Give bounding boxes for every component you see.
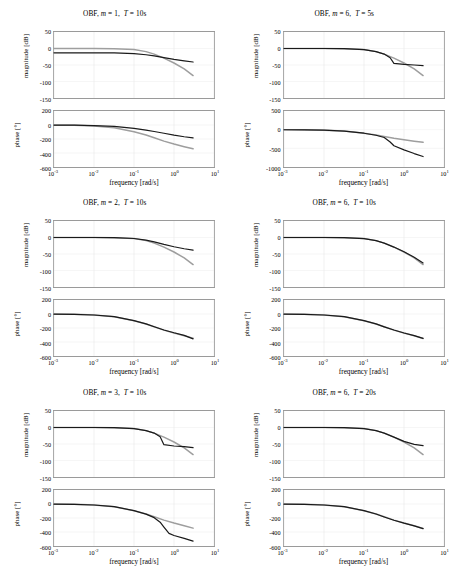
xtick: 10-2 [318,358,328,366]
ytick-phase: 0 [48,310,51,317]
frequency-axis-label: frequency [rad/s] [53,558,215,566]
ytick-phase: -400 [40,150,51,157]
ytick-magnitude: -50 [43,251,51,258]
panel-title: OBF, m = 3, T = 10s [0,388,230,397]
ytick-phase: -200 [40,136,51,143]
frequency-axis-label: frequency [rad/s] [53,179,215,187]
phase-axes [53,299,215,357]
xtick: 101 [211,169,219,177]
panel-title: OBF, m = 6, T = 20s [230,388,459,397]
panel-title: OBF, m = 6, T = 5s [230,9,459,18]
ytick-magnitude: 50 [274,406,280,413]
xtick: 10-3 [277,358,287,366]
bode-panel-obf-m1-T10: OBF, m = 1, T = 10s500-50-100-150magnitu… [0,0,230,189]
xtick: 100 [170,169,178,177]
magnitude-axes [53,410,215,478]
xtick: 100 [400,358,408,366]
ytick-magnitude: 0 [277,234,280,241]
xtick-row: 10-310-210-1100101 [0,358,230,368]
xtick: 100 [400,548,408,556]
xtick: 10-2 [88,548,98,556]
ytick-phase: -400 [269,529,280,536]
ytick-phase: 200 [42,107,51,114]
bode-panel-obf-m2-T10: OBF, m = 2, T = 10s500-50-100-150magnitu… [0,189,230,378]
ytick-phase: -200 [40,514,51,521]
ytick-phase: 200 [271,296,280,303]
xtick: 10-2 [318,548,328,556]
ytick-phase: 0 [277,126,280,133]
phase-axes [283,299,445,357]
xtick: 100 [170,358,178,366]
bode-panel-obf-m6-T5: OBF, m = 6, T = 5s500-50-100-150magnitud… [230,0,459,189]
phase-axis-label: phase [°] [243,295,251,353]
phase-axes [53,489,215,547]
ytick-magnitude: -150 [269,474,280,481]
phase-axes [283,110,445,168]
ytick-magnitude: -50 [272,251,280,258]
xtick: 10-1 [129,358,139,366]
ytick-magnitude: -150 [40,96,51,103]
phase-axis-label: phase [°] [243,485,251,543]
xtick-row: 10-310-210-1100101 [230,358,459,368]
xtick: 10-2 [318,169,328,177]
xtick: 10-2 [88,169,98,177]
phase-axis-label: phase [°] [243,106,251,164]
xtick-row: 10-310-210-1100101 [230,169,459,179]
ytick-magnitude: 50 [45,406,51,413]
bode-panel-obf-m6-T20: OBF, m = 6, T = 20s500-50-100-150magnitu… [230,379,459,568]
ytick-magnitude: -100 [40,79,51,86]
phase-axis-label: phase [°] [13,485,21,543]
ytick-magnitude: 50 [274,217,280,224]
xtick: 101 [211,548,219,556]
magnitude-axes [283,31,445,99]
ytick-magnitude: -150 [40,285,51,292]
xtick: 101 [440,548,448,556]
ytick-phase: 500 [271,107,280,114]
ytick-phase: 200 [42,296,51,303]
bode-plot-grid: OBF, m = 1, T = 10s500-50-100-150magnitu… [0,0,459,568]
xtick: 10-1 [129,548,139,556]
magnitude-axes [53,220,215,288]
ytick-magnitude: 50 [45,217,51,224]
bode-panel-obf-m3-T10: OBF, m = 3, T = 10s500-50-100-150magnitu… [0,379,230,568]
phase-axis-label: phase [°] [13,295,21,353]
xtick: 100 [170,548,178,556]
ytick-magnitude: -100 [269,268,280,275]
ytick-magnitude: 50 [45,28,51,35]
xtick-row: 10-310-210-1100101 [230,548,459,558]
panel-title: OBF, m = 1, T = 10s [0,9,230,18]
panel-title: OBF, m = 6, T = 10s [230,198,459,207]
ytick-magnitude: -100 [269,457,280,464]
magnitude-axis-label: magnitude [dB] [252,401,260,469]
ytick-magnitude: -100 [269,79,280,86]
xtick: 10-3 [277,548,287,556]
bode-panel-obf-m6-T10: OBF, m = 6, T = 10s500-50-100-150magnitu… [230,189,459,378]
magnitude-axes [283,220,445,288]
xtick: 10-1 [358,358,368,366]
ytick-phase: 200 [42,485,51,492]
ytick-magnitude: 0 [48,45,51,52]
ytick-magnitude: 0 [48,423,51,430]
ytick-magnitude: -150 [269,285,280,292]
phase-axis-label: phase [°] [13,106,21,164]
ytick-magnitude: -50 [43,440,51,447]
ytick-phase: 0 [277,310,280,317]
xtick: 10-3 [48,169,58,177]
magnitude-axis-label: magnitude [dB] [22,401,30,469]
frequency-axis-label: frequency [rad/s] [283,368,445,376]
ytick-phase: -200 [269,325,280,332]
ytick-magnitude: 0 [277,45,280,52]
ytick-phase: 0 [277,500,280,507]
ytick-phase: -400 [40,529,51,536]
xtick-row: 10-310-210-1100101 [0,548,230,558]
ytick-magnitude: 50 [274,28,280,35]
phase-axes [53,110,215,168]
frequency-axis-label: frequency [rad/s] [283,558,445,566]
ytick-phase: -400 [269,339,280,346]
xtick: 10-1 [129,169,139,177]
xtick: 10-2 [88,358,98,366]
ytick-phase: -400 [40,339,51,346]
ytick-phase: -500 [269,145,280,152]
ytick-magnitude: 0 [48,234,51,241]
xtick: 10-1 [358,169,368,177]
